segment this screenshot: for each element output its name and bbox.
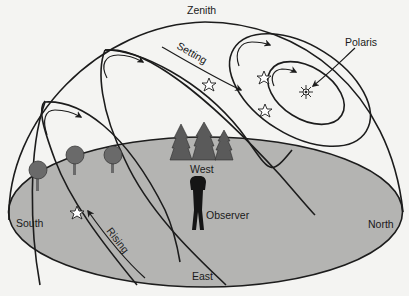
label-east: East (192, 270, 213, 282)
label-observer: Observer (206, 209, 250, 221)
label-west: West (190, 163, 214, 175)
label-south: South (16, 217, 44, 229)
arrow-upper-left (104, 55, 143, 78)
arrow-polaris-pointer (313, 48, 355, 86)
label-setting: Setting (175, 39, 209, 66)
arrow-circumpolar-inner (272, 69, 296, 86)
arrow-lower-left (45, 110, 81, 135)
label-polaris: Polaris (345, 36, 377, 48)
celestial-sphere-diagram: Zenith Setting Polaris West Observer Sou… (0, 0, 409, 296)
star-setting-icon (202, 78, 216, 91)
polaris-icon (299, 85, 313, 99)
label-north: North (368, 218, 394, 230)
arrow-circumpolar-outer (237, 42, 270, 66)
label-zenith: Zenith (187, 4, 216, 16)
evergreen-trees-icon (170, 122, 233, 160)
star-circumpolar-lower-icon (258, 104, 272, 117)
